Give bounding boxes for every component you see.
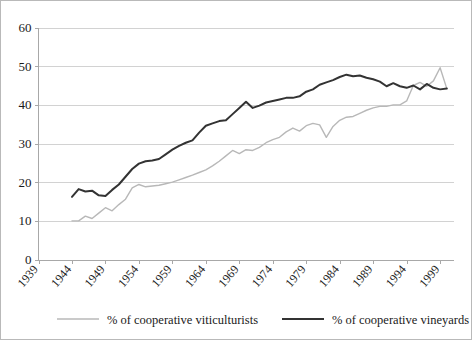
y-tick-label-20: 20 [19, 175, 32, 190]
x-tick-label-1999: 1999 [416, 262, 442, 289]
x-tick-label-1989: 1989 [349, 262, 375, 289]
y-tick-label-30: 30 [19, 136, 32, 151]
y-tick-label-10: 10 [19, 213, 32, 228]
x-tick-label-1949: 1949 [82, 262, 108, 289]
line-chart: 0102030405060 19391944194919541959196419… [1, 1, 471, 339]
legend-label-viticulturists: % of cooperative viticulturists [107, 313, 258, 327]
x-tick-label-1959: 1959 [149, 262, 175, 289]
y-tick-marks [35, 29, 39, 261]
axes [39, 28, 454, 261]
x-tick-label-1994: 1994 [383, 262, 409, 289]
x-tick-label-1984: 1984 [316, 262, 342, 289]
x-tick-label-1979: 1979 [282, 262, 308, 289]
gridlines [39, 29, 454, 222]
chart-frame: 0102030405060 19391944194919541959196419… [0, 0, 472, 340]
y-tick-label-60: 60 [19, 20, 32, 35]
x-tick-labels: 1939194419491954195919641969197419791984… [15, 262, 443, 289]
series-line-vineyards [72, 75, 447, 197]
x-tick-label-1974: 1974 [249, 262, 275, 289]
y-tick-label-40: 40 [19, 97, 32, 112]
chart-legend: % of cooperative viticulturists% of coop… [57, 313, 469, 327]
x-tick-label-1954: 1954 [115, 262, 141, 289]
legend-label-vineyards: % of cooperative vineyards [332, 313, 469, 327]
x-tick-label-1939: 1939 [15, 262, 41, 289]
y-tick-label-50: 50 [19, 59, 32, 74]
x-tick-label-1964: 1964 [182, 262, 208, 289]
x-tick-label-1969: 1969 [215, 262, 241, 289]
y-tick-labels: 0102030405060 [19, 20, 32, 267]
x-tick-label-1944: 1944 [48, 262, 74, 289]
